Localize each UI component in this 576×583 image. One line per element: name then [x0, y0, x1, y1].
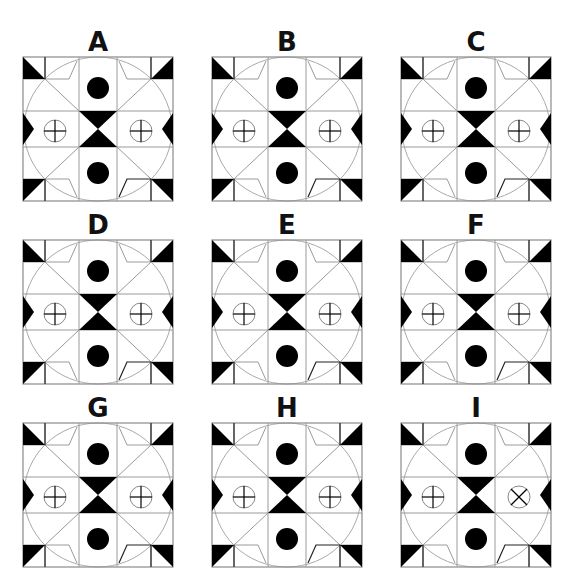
hourglass-bottom-icon	[268, 129, 306, 147]
panel-drawing	[400, 422, 552, 568]
left-circle-plus-icon	[233, 120, 255, 142]
hourglass-top-icon	[268, 294, 306, 312]
hourglass-top-icon	[79, 477, 117, 495]
right-wedge-icon	[351, 296, 362, 328]
left-wedge-icon	[23, 296, 34, 328]
top-right-triangle-icon	[340, 423, 362, 445]
top-right-triangle-icon	[151, 240, 173, 262]
bottom-left-triangle-icon	[401, 362, 423, 384]
right-circle-plus-icon	[319, 303, 341, 325]
right-circle-plus-icon	[130, 120, 152, 142]
panel-figure	[22, 239, 174, 385]
left-circle-plus-icon	[422, 486, 444, 508]
right-wedge-icon	[162, 296, 173, 328]
right-circle-plus-icon	[130, 303, 152, 325]
top-dot-icon	[276, 77, 298, 99]
top-dot-icon	[87, 260, 109, 282]
left-circle-plus-icon	[233, 303, 255, 325]
left-wedge-icon	[23, 479, 34, 511]
top-right-triangle-icon	[529, 423, 551, 445]
panel-drawing	[211, 56, 363, 202]
bottom-right-trapezoid	[497, 179, 529, 197]
panel-label: B	[211, 28, 363, 56]
right-circle-plus-icon	[508, 120, 530, 142]
panel-label: F	[400, 211, 552, 239]
left-wedge-icon	[212, 296, 223, 328]
right-circle-plus-icon	[319, 486, 341, 508]
top-right-triangle-icon	[529, 240, 551, 262]
bottom-right-triangle-icon	[529, 545, 551, 567]
top-left-triangle-icon	[212, 57, 234, 79]
bottom-right-triangle-icon	[529, 362, 551, 384]
hourglass-bottom-icon	[79, 495, 117, 513]
panel-label: H	[211, 394, 363, 422]
top-left-triangle-icon	[401, 240, 423, 262]
hourglass-top-icon	[457, 477, 495, 495]
right-circle-plus-icon	[319, 120, 341, 142]
panel-drawing	[22, 422, 174, 568]
right-wedge-icon	[351, 479, 362, 511]
top-dot-icon	[276, 260, 298, 282]
panel-drawing	[211, 422, 363, 568]
bottom-right-triangle-icon	[151, 545, 173, 567]
panel-figure	[211, 422, 363, 568]
right-circle-plus-icon	[508, 303, 530, 325]
left-wedge-icon	[401, 296, 412, 328]
bottom-dot-icon	[87, 345, 109, 367]
bottom-dot-icon	[465, 162, 487, 184]
bottom-dot-icon	[276, 528, 298, 550]
hourglass-bottom-icon	[457, 129, 495, 147]
top-right-triangle-icon	[529, 57, 551, 79]
top-left-triangle-icon	[401, 57, 423, 79]
top-right-triangle-icon	[151, 57, 173, 79]
right-wedge-icon	[540, 113, 551, 145]
hourglass-top-icon	[79, 294, 117, 312]
top-dot-icon	[276, 443, 298, 465]
top-left-triangle-icon	[212, 423, 234, 445]
top-right-triangle-icon	[340, 57, 362, 79]
left-circle-plus-icon	[422, 303, 444, 325]
bottom-right-trapezoid	[308, 545, 340, 563]
panel-drawing	[22, 56, 174, 202]
right-wedge-icon	[162, 113, 173, 145]
right-wedge-icon	[540, 479, 551, 511]
right-wedge-icon	[351, 113, 362, 145]
bottom-right-trapezoid	[497, 362, 529, 380]
left-wedge-icon	[401, 113, 412, 145]
hourglass-bottom-icon	[268, 495, 306, 513]
panel-figure	[211, 239, 363, 385]
panel-figure	[211, 56, 363, 202]
top-right-triangle-icon	[340, 240, 362, 262]
hourglass-bottom-icon	[457, 312, 495, 330]
bottom-right-triangle-icon	[340, 545, 362, 567]
panel-figure	[400, 56, 552, 202]
hourglass-top-icon	[268, 477, 306, 495]
hourglass-bottom-icon	[457, 495, 495, 513]
panel-label: E	[211, 211, 363, 239]
top-left-triangle-icon	[23, 240, 45, 262]
bottom-right-trapezoid	[119, 179, 151, 197]
bottom-dot-icon	[465, 345, 487, 367]
panel-figure	[22, 56, 174, 202]
bottom-left-triangle-icon	[401, 179, 423, 201]
bottom-right-trapezoid	[497, 545, 529, 563]
top-left-triangle-icon	[212, 240, 234, 262]
left-wedge-icon	[23, 113, 34, 145]
panel-label: D	[22, 211, 174, 239]
hourglass-top-icon	[268, 111, 306, 129]
top-left-triangle-icon	[23, 423, 45, 445]
bottom-left-triangle-icon	[23, 362, 45, 384]
right-wedge-icon	[540, 296, 551, 328]
panel-label: C	[400, 28, 552, 56]
bottom-right-trapezoid	[119, 545, 151, 563]
bottom-left-triangle-icon	[212, 545, 234, 567]
left-wedge-icon	[212, 479, 223, 511]
top-dot-icon	[465, 260, 487, 282]
top-left-triangle-icon	[23, 57, 45, 79]
bottom-right-triangle-icon	[340, 362, 362, 384]
hourglass-top-icon	[457, 294, 495, 312]
bottom-left-triangle-icon	[23, 179, 45, 201]
bottom-dot-icon	[276, 162, 298, 184]
bottom-dot-icon	[87, 528, 109, 550]
hourglass-top-icon	[79, 111, 117, 129]
